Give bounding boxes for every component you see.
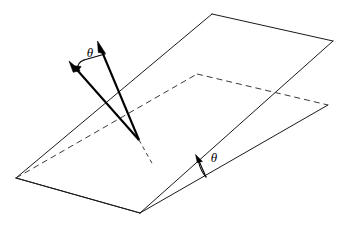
upper-plane-edge-back-left (16, 14, 212, 178)
lower-plane-hidden-edge-back-right (197, 74, 328, 105)
upper-plane-edge-top (212, 14, 333, 41)
vector-angle-theta-label: θ (87, 45, 94, 60)
upper-plane (16, 14, 333, 213)
figure-canvas: θ θ (0, 0, 345, 228)
dihedral-angle-leg (199, 161, 206, 177)
upper-plane-edge-front-right (140, 41, 333, 213)
normal-stub-dashed-line (139, 140, 153, 165)
lower-plane-edge-front-right (140, 105, 328, 213)
lower-plane (16, 74, 328, 213)
dihedral-angle-theta-label: θ (211, 150, 218, 165)
lower-plane-hidden-edge-back-left (16, 74, 197, 178)
lower-plane-edge-fold (16, 178, 140, 213)
vector-right (98, 41, 140, 140)
vector-left-shaft (75, 67, 140, 140)
vector-right-arrowhead (98, 41, 106, 54)
geometry-diagram: θ θ (0, 0, 345, 228)
vector-left (69, 61, 139, 140)
